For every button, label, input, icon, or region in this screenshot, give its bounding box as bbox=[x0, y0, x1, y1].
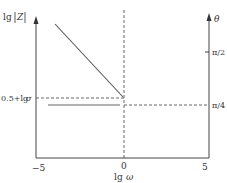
left-axis-label-z: Z bbox=[16, 12, 24, 22]
left-axis-label-lg: lg bbox=[3, 12, 12, 22]
bode-plot-chart: lg Z θ π/2 π/4 0.5+lg σ −5 0 5 lg ω bbox=[0, 0, 227, 183]
x-axis-label-omega: ω bbox=[126, 172, 134, 182]
pi-quarter-label: π/4 bbox=[212, 101, 225, 110]
sigma-annotation-label: 0.5+lg σ bbox=[1, 94, 32, 103]
x-tick-0: 0 bbox=[121, 161, 127, 171]
x-axis-label: lg ω bbox=[114, 172, 134, 182]
pi-half-label: π/2 bbox=[212, 48, 225, 57]
right-axis-label: θ bbox=[214, 14, 220, 24]
right-axis-arrow-icon bbox=[207, 13, 212, 21]
left-axis-label: lg Z bbox=[3, 12, 25, 23]
x-tick-neg5: −5 bbox=[32, 163, 46, 173]
sigma-annotation-num: 0.5+lg bbox=[1, 94, 28, 103]
sigma-annotation-sym: σ bbox=[26, 94, 32, 103]
x-tick-5: 5 bbox=[202, 162, 208, 172]
magnitude-series-line bbox=[55, 24, 123, 97]
x-axis-label-lg: lg bbox=[114, 172, 123, 182]
left-axis-arrow-icon bbox=[34, 16, 39, 24]
